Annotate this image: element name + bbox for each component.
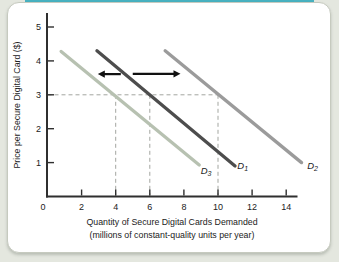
x-tick-label-14: 14 <box>281 202 291 212</box>
x-tick-label-8: 8 <box>181 202 186 212</box>
x-axis-title-line2: (millions of constant-quality units per … <box>90 230 255 240</box>
demand-chart: 1234502468101214D3D1D2 Price per Secure … <box>0 0 339 262</box>
curve-label-d3: D3 <box>201 165 212 177</box>
x-tick-label-10: 10 <box>213 202 223 212</box>
curve-label-subscript-d3: 3 <box>208 170 212 177</box>
x-tick-label-4: 4 <box>113 202 118 212</box>
y-tick-label-3: 3 <box>36 90 41 100</box>
curve-label-d2: D2 <box>307 160 318 172</box>
shift-right-arrow-head <box>173 70 180 77</box>
x-tick-label-0: 0 <box>40 202 45 212</box>
x-tick-label-6: 6 <box>147 202 152 212</box>
x-axis-title-line1: Quantity of Secure Digital Cards Demande… <box>86 217 257 227</box>
demand-curve-d1 <box>97 51 235 166</box>
y-tick-label-2: 2 <box>36 124 41 134</box>
page: { "page": { "background": "#e4e7df", "to… <box>0 0 339 262</box>
y-tick-label-5: 5 <box>36 22 41 32</box>
demand-curve-d2 <box>165 51 301 163</box>
curve-label-d1: D1 <box>237 160 248 172</box>
demand-curve-d3 <box>61 51 199 165</box>
x-tick-label-12: 12 <box>247 202 257 212</box>
y-tick-label-1: 1 <box>36 158 41 168</box>
y-tick-label-4: 4 <box>36 56 41 66</box>
curve-label-subscript-d1: 1 <box>244 165 248 172</box>
chart-generated-layer: 1234502468101214D3D1D2 <box>36 13 318 212</box>
curve-label-subscript-d2: 2 <box>313 165 318 172</box>
y-axis-title: Price per Secure Digital Card ($) <box>12 41 22 168</box>
shift-left-arrow-head <box>98 71 105 78</box>
x-tick-label-2: 2 <box>79 202 84 212</box>
